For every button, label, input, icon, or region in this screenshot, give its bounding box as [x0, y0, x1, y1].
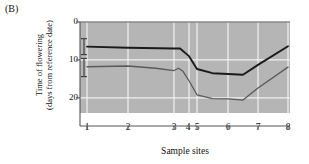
series-line-anther	[87, 66, 288, 100]
y-tick-label-10: 10	[56, 54, 78, 64]
x-tick-label-2: 2	[121, 122, 135, 132]
series-label-anther: Anther emergence	[97, 73, 167, 83]
y-axis-label-line1: Time of flowering	[34, 17, 44, 113]
y-axis-label-line2: (days from reference date)	[44, 17, 54, 113]
series-label-stigma: Stigma emergence	[97, 27, 167, 37]
x-tick-label-3: 3	[167, 122, 181, 132]
error-bar	[81, 39, 87, 55]
y-tick-label-20: 20	[56, 92, 78, 102]
figure-panel-b: (B) Time of flowering (days from referen…	[0, 0, 309, 164]
x-tick-label-8: 8	[281, 122, 295, 132]
x-tick-label-6: 6	[221, 122, 235, 132]
x-tick-label-1: 1	[80, 122, 94, 132]
panel-label: (B)	[5, 3, 18, 14]
error-bars	[81, 39, 87, 77]
y-tick-label-0: 0	[56, 16, 78, 26]
x-axis-label: Sample sites	[80, 146, 290, 156]
series-line-stigma	[87, 46, 288, 74]
x-tick-label-5: 5	[190, 122, 204, 132]
error-bar	[81, 58, 87, 76]
x-tick-label-7: 7	[251, 122, 265, 132]
